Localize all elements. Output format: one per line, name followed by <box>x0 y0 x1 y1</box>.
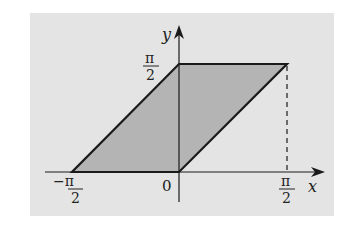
y-axis-label: y <box>161 25 172 44</box>
x-pos-tick-numerator: π <box>281 173 290 189</box>
x-axis-label: x <box>308 177 317 196</box>
parallelogram-diagram: y x 0 π 2 −π 2 π 2 <box>0 0 351 229</box>
origin-label: 0 <box>162 177 172 195</box>
x-neg-tick-numerator: −π <box>53 173 74 189</box>
x-pos-tick-denominator: 2 <box>282 190 291 206</box>
y-tick-numerator: π <box>145 50 154 66</box>
x-neg-tick-denominator: 2 <box>71 190 80 206</box>
y-tick-denominator: 2 <box>146 67 155 83</box>
